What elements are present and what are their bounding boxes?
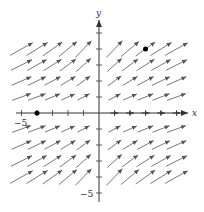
- x-axis-label: x: [192, 108, 197, 118]
- vector-arrow: [107, 58, 122, 71]
- vector-arrow: [77, 140, 90, 150]
- vector-arrow: [77, 126, 89, 132]
- vector-arrow: [167, 94, 186, 101]
- vector-arrow: [107, 154, 122, 167]
- vector-arrow: [12, 141, 32, 150]
- vector-arrow: [28, 77, 46, 86]
- vector-arrow: [166, 156, 187, 167]
- vector-arrow: [77, 94, 89, 100]
- vector-arrow: [108, 126, 120, 132]
- vector-arrow: [167, 126, 186, 133]
- vector-arrow: [77, 76, 90, 86]
- vector-arrow: [43, 42, 63, 56]
- vector-arrow: [108, 140, 121, 150]
- vector-arrow: [138, 126, 153, 132]
- vector-arrow: [76, 41, 92, 58]
- vector-arrow: [60, 155, 76, 167]
- vector-arrow: [12, 77, 32, 86]
- vector-arrow: [60, 59, 76, 71]
- vector-arrow: [76, 58, 91, 71]
- vector-arrow: [61, 140, 76, 149]
- vector-arrow: [167, 77, 187, 86]
- y-min-label: −5: [80, 189, 94, 199]
- vector-arrow: [167, 141, 187, 150]
- y-axis-label: y: [95, 8, 102, 18]
- vector-arrow: [108, 94, 120, 100]
- vector-arrow: [12, 94, 31, 101]
- vector-arrow: [59, 41, 77, 56]
- vector-arrow: [108, 76, 121, 86]
- vector-arrow: [45, 94, 60, 100]
- vector-arrow: [138, 94, 153, 100]
- vector-arrow: [122, 59, 138, 71]
- vector-arrow: [11, 60, 32, 71]
- vector-arrow: [107, 41, 123, 58]
- vector-arrow: [61, 76, 76, 85]
- x-min-label: −5: [14, 118, 28, 128]
- vector-arrow: [151, 60, 170, 71]
- vector-arrow: [11, 156, 32, 167]
- vector-arrow: [137, 59, 155, 70]
- vector-arrow: [27, 156, 46, 167]
- vector-field-plot: x y −5 −5: [0, 0, 204, 212]
- vector-arrow: [137, 77, 153, 86]
- vector-arrow: [76, 169, 92, 186]
- vector-arrow: [107, 169, 123, 186]
- vector-arrow: [123, 76, 138, 85]
- axes: [16, 20, 188, 202]
- vector-arrow: [166, 60, 187, 71]
- vector-arrow: [61, 94, 75, 100]
- vector-arrow: [123, 94, 137, 100]
- vector-arrow: [61, 126, 75, 132]
- vector-arrow: [44, 155, 62, 166]
- vector-arrow: [44, 141, 60, 150]
- vector-arrow: [121, 41, 139, 56]
- vector-arrow: [43, 170, 63, 184]
- vector-arrow: [123, 126, 137, 132]
- vector-arrow: [137, 141, 153, 150]
- marked-point: [143, 47, 148, 52]
- vector-arrow: [76, 154, 91, 167]
- vector-arrow: [45, 126, 60, 132]
- marked-points: [35, 47, 149, 116]
- vector-arrow: [121, 169, 139, 184]
- vector-arrow: [137, 155, 155, 166]
- vector-arrow: [59, 169, 77, 184]
- vector-arrow: [152, 126, 169, 133]
- vector-arrow: [44, 77, 60, 86]
- vector-arrow: [27, 60, 46, 71]
- vector-arrow: [122, 155, 138, 167]
- vector-arrow: [28, 126, 45, 133]
- vector-arrow: [152, 94, 169, 101]
- vector-arrow: [152, 77, 170, 86]
- vector-arrow: [152, 141, 170, 150]
- vector-arrow: [44, 59, 62, 70]
- vector-arrow: [28, 141, 46, 150]
- vector-arrow: [123, 140, 138, 149]
- vector-arrow: [136, 170, 156, 184]
- vector-arrow: [28, 94, 45, 101]
- marked-point: [35, 111, 40, 116]
- vector-arrow: [151, 156, 170, 167]
